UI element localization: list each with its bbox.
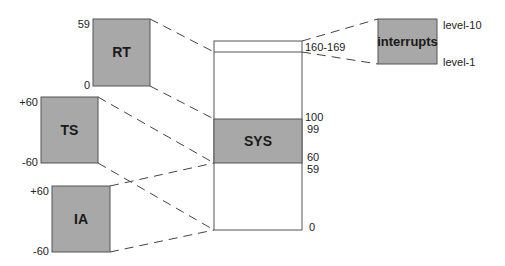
interrupts-top-tick: level-10	[443, 19, 482, 31]
interrupts-class-box: interrupts level-10 level-1	[377, 19, 481, 68]
sys-label: SYS	[244, 133, 272, 149]
rt-top-connector	[150, 19, 214, 52]
ia-bottom-tick: -60	[33, 245, 49, 257]
rt-label: RT	[112, 44, 131, 60]
rt-bottom-tick: 0	[84, 79, 90, 91]
ia-bottom-connector	[110, 230, 214, 252]
ts-top-connector	[98, 97, 214, 163]
rt-bottom-connector	[150, 86, 214, 119]
interrupt-range-tick: 160-169	[305, 41, 345, 53]
sys-bottom-tick-2: 59	[307, 163, 319, 175]
ia-class-box: IA +60 -60	[30, 185, 110, 257]
interrupts-label: interrupts	[377, 34, 438, 49]
ts-top-tick: +60	[19, 96, 38, 108]
ts-bottom-connector	[98, 163, 214, 230]
interrupts-bottom-tick: level-1	[443, 56, 475, 68]
ia-top-tick: +60	[30, 185, 49, 197]
ts-bottom-tick: -60	[22, 156, 38, 168]
interrupts-top-connector	[302, 19, 378, 41]
interrupts-bottom-connector	[302, 52, 378, 64]
sys-top-tick-2: 99	[307, 123, 319, 135]
ia-top-connector	[110, 163, 214, 186]
priority-diagram: RT 59 0 TS +60 -60 IA +60 -60 SYS 160-16…	[0, 0, 505, 266]
ia-label: IA	[74, 211, 88, 227]
sys-bottom-tick: 60	[307, 151, 319, 163]
column-bottom-tick: 0	[309, 221, 315, 233]
ts-label: TS	[61, 122, 79, 138]
rt-class-box: RT 59 0	[78, 18, 150, 91]
rt-top-tick: 59	[78, 18, 90, 30]
sys-top-tick: 100	[305, 111, 323, 123]
global-priority-column: SYS 160-169 100 99 60 59 0	[214, 41, 345, 233]
ts-class-box: TS +60 -60	[19, 96, 98, 168]
